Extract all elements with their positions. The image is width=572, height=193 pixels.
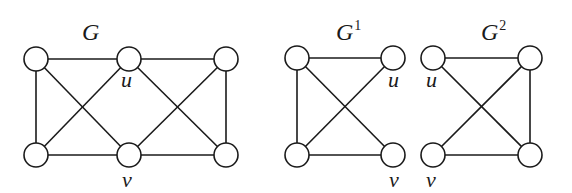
vertex-d (24, 143, 48, 167)
vertex-label-v: v (122, 167, 132, 192)
vertex-label-u: u (388, 67, 399, 92)
graph-g1: uvG1 (285, 18, 405, 192)
vertex-c (214, 47, 238, 71)
vertex-f (518, 143, 542, 167)
vertex-d (285, 143, 309, 167)
graph-g2: uvG2 (421, 18, 542, 192)
vertex-label-u: u (121, 67, 132, 92)
vertex-v (117, 143, 141, 167)
vertex-c (518, 46, 542, 70)
vertex-label-v: v (389, 167, 399, 192)
vertex-a (24, 47, 48, 71)
graph-title: G1 (336, 18, 361, 45)
vertex-v (381, 143, 405, 167)
vertex-label-u: u (426, 67, 437, 92)
graph-title: G (82, 19, 99, 45)
graph-title: G2 (481, 18, 506, 45)
graph-g: uvG (24, 19, 238, 192)
graph-diagram: uvGuvG1uvG2 (0, 0, 572, 193)
vertex-v (421, 143, 445, 167)
vertex-f (214, 143, 238, 167)
vertex-label-v: v (426, 167, 436, 192)
vertex-a (285, 46, 309, 70)
